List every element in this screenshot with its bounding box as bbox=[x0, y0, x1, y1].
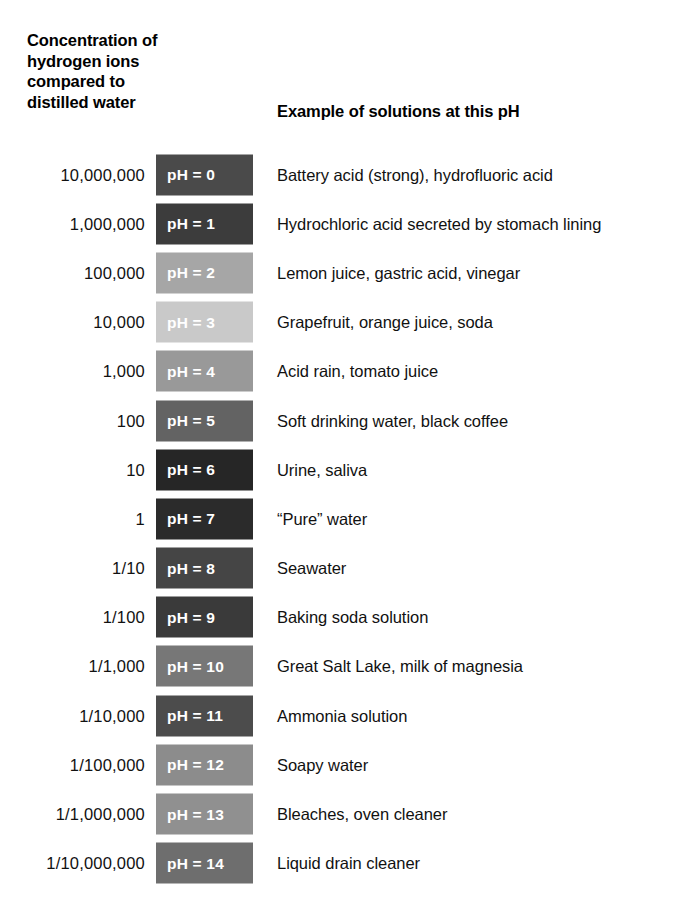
example-solution-text: Ammonia solution bbox=[277, 706, 691, 726]
concentration-column-header: Concentration of hydrogen ions compared … bbox=[27, 30, 227, 112]
example-solution-text: Seawater bbox=[277, 558, 691, 578]
example-column-header: Example of solutions at this pH bbox=[277, 102, 520, 121]
concentration-value: 100,000 bbox=[0, 263, 145, 282]
table-row: 10,000,000pH = 0Battery acid (strong), h… bbox=[0, 150, 697, 199]
concentration-header-line-3: compared to bbox=[27, 71, 227, 92]
ph-chip: pH = 9 bbox=[156, 597, 253, 638]
concentration-header-line-1: Concentration of bbox=[27, 30, 227, 51]
ph-chip: pH = 14 bbox=[156, 843, 253, 884]
ph-chip: pH = 5 bbox=[156, 400, 253, 441]
table-row: 1/100,000pH = 12Soapy water bbox=[0, 740, 697, 789]
example-solution-text: Bleaches, oven cleaner bbox=[277, 804, 691, 824]
table-row: 1,000,000pH = 1Hydrochloric acid secrete… bbox=[0, 199, 697, 248]
ph-chip-label: pH = 0 bbox=[167, 166, 215, 184]
ph-chip-label: pH = 4 bbox=[167, 362, 215, 380]
example-solution-text: Hydrochloric acid secreted by stomach li… bbox=[277, 214, 691, 234]
concentration-value: 1/1,000,000 bbox=[0, 805, 145, 824]
ph-chip-label: pH = 8 bbox=[167, 559, 215, 577]
table-row: 10,000pH = 3Grapefruit, orange juice, so… bbox=[0, 298, 697, 347]
table-row: 1/1,000,000pH = 13Bleaches, oven cleaner bbox=[0, 789, 697, 838]
ph-chip: pH = 4 bbox=[156, 351, 253, 392]
concentration-value: 10 bbox=[0, 460, 145, 479]
ph-row-list: 10,000,000pH = 0Battery acid (strong), h… bbox=[0, 150, 697, 888]
ph-chip: pH = 2 bbox=[156, 252, 253, 293]
concentration-header-line-4: distilled water bbox=[27, 92, 227, 113]
table-row: 1,000pH = 4Acid rain, tomato juice bbox=[0, 347, 697, 396]
example-solution-text: Liquid drain cleaner bbox=[277, 853, 691, 873]
ph-scale-chart: Concentration of hydrogen ions compared … bbox=[0, 0, 697, 907]
table-row: 10pH = 6Urine, saliva bbox=[0, 445, 697, 494]
ph-chip: pH = 0 bbox=[156, 154, 253, 195]
ph-chip-label: pH = 3 bbox=[167, 313, 215, 331]
example-solution-text: Grapefruit, orange juice, soda bbox=[277, 312, 691, 332]
table-row: 100pH = 5Soft drinking water, black coff… bbox=[0, 396, 697, 445]
concentration-value: 1/100 bbox=[0, 608, 145, 627]
ph-chip: pH = 12 bbox=[156, 744, 253, 785]
ph-chip: pH = 13 bbox=[156, 794, 253, 835]
ph-chip-label: pH = 7 bbox=[167, 510, 215, 528]
ph-chip-label: pH = 10 bbox=[167, 657, 224, 675]
chart-header: Concentration of hydrogen ions compared … bbox=[0, 0, 697, 150]
ph-chip: pH = 3 bbox=[156, 302, 253, 343]
ph-chip: pH = 10 bbox=[156, 646, 253, 687]
example-solution-text: Soapy water bbox=[277, 755, 691, 775]
concentration-value: 1,000,000 bbox=[0, 214, 145, 233]
table-row: 1/10pH = 8Seawater bbox=[0, 544, 697, 593]
ph-chip-label: pH = 11 bbox=[167, 707, 223, 725]
ph-chip: pH = 11 bbox=[156, 695, 253, 736]
concentration-value: 1/1,000 bbox=[0, 657, 145, 676]
ph-chip-label: pH = 2 bbox=[167, 264, 215, 282]
table-row: 1/100pH = 9Baking soda solution bbox=[0, 593, 697, 642]
ph-chip-label: pH = 1 bbox=[167, 215, 215, 233]
example-solution-text: Baking soda solution bbox=[277, 607, 691, 627]
example-solution-text: Acid rain, tomato juice bbox=[277, 361, 691, 381]
ph-chip: pH = 6 bbox=[156, 449, 253, 490]
table-row: 1/1,000pH = 10Great Salt Lake, milk of m… bbox=[0, 642, 697, 691]
concentration-header-line-2: hydrogen ions bbox=[27, 51, 227, 72]
table-row: 100,000pH = 2Lemon juice, gastric acid, … bbox=[0, 248, 697, 297]
concentration-value: 1/10,000 bbox=[0, 706, 145, 725]
example-solution-text: Urine, saliva bbox=[277, 460, 691, 480]
example-solution-text: Great Salt Lake, milk of magnesia bbox=[277, 656, 691, 676]
ph-chip-label: pH = 9 bbox=[167, 608, 215, 626]
ph-chip: pH = 1 bbox=[156, 203, 253, 244]
table-row: 1pH = 7“Pure” water bbox=[0, 494, 697, 543]
concentration-value: 1,000 bbox=[0, 362, 145, 381]
ph-chip-label: pH = 12 bbox=[167, 756, 224, 774]
concentration-value: 1/10,000,000 bbox=[0, 854, 145, 873]
concentration-value: 1 bbox=[0, 509, 145, 528]
concentration-value: 100 bbox=[0, 411, 145, 430]
concentration-value: 10,000 bbox=[0, 313, 145, 332]
ph-chip: pH = 8 bbox=[156, 548, 253, 589]
ph-chip-label: pH = 6 bbox=[167, 461, 215, 479]
table-row: 1/10,000pH = 11Ammonia solution bbox=[0, 691, 697, 740]
example-solution-text: “Pure” water bbox=[277, 509, 691, 529]
ph-chip-label: pH = 13 bbox=[167, 805, 224, 823]
ph-chip-label: pH = 5 bbox=[167, 412, 215, 430]
ph-chip: pH = 7 bbox=[156, 498, 253, 539]
ph-chip-label: pH = 14 bbox=[167, 854, 224, 872]
example-solution-text: Soft drinking water, black coffee bbox=[277, 411, 691, 431]
concentration-value: 1/100,000 bbox=[0, 755, 145, 774]
table-row: 1/10,000,000pH = 14Liquid drain cleaner bbox=[0, 839, 697, 888]
example-solution-text: Lemon juice, gastric acid, vinegar bbox=[277, 263, 691, 283]
concentration-value: 1/10 bbox=[0, 559, 145, 578]
example-solution-text: Battery acid (strong), hydrofluoric acid bbox=[277, 165, 691, 185]
concentration-value: 10,000,000 bbox=[0, 165, 145, 184]
